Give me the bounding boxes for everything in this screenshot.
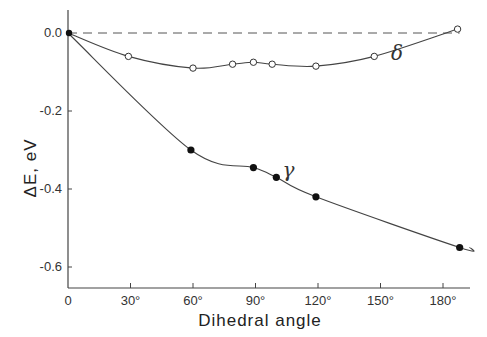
series-markers xyxy=(66,26,463,251)
open-circle-marker xyxy=(313,63,319,69)
x-tick-label: 90° xyxy=(246,293,266,308)
x-tick-label: 30° xyxy=(121,293,141,308)
open-circle-marker xyxy=(250,59,256,65)
axes: 030°60°90°120°150°180°0.0-0.2-0.4-0.6 xyxy=(40,10,470,308)
x-axis-title: Dihedral angle xyxy=(198,311,322,330)
open-circle-marker xyxy=(229,61,235,67)
open-circle-marker xyxy=(190,65,196,71)
open-circle-marker xyxy=(269,61,275,67)
x-tick-label: 0 xyxy=(64,293,71,308)
x-tick-label: 180° xyxy=(430,293,457,308)
series-label-gamma: γ xyxy=(283,158,295,182)
labels: Dihedral angle ΔE, eV δ γ xyxy=(21,41,403,331)
open-circle-marker xyxy=(454,26,460,32)
filled-circle-marker xyxy=(250,164,257,171)
origin-marker xyxy=(66,30,72,36)
filled-circle-marker xyxy=(456,244,463,251)
open-circle-marker xyxy=(371,53,377,59)
y-tick-label: -0.2 xyxy=(40,103,62,118)
x-tick-label: 60° xyxy=(183,293,203,308)
x-tick-label: 120° xyxy=(305,293,332,308)
series-label-delta: δ xyxy=(391,41,403,65)
y-tick-label: 0.0 xyxy=(44,25,62,40)
filled-circle-marker xyxy=(187,146,194,153)
y-axis-title: ΔE, eV xyxy=(21,139,40,198)
open-circle-marker xyxy=(125,53,131,59)
dihedral-energy-chart: 030°60°90°120°150°180°0.0-0.2-0.4-0.6 Di… xyxy=(0,0,487,337)
filled-circle-marker xyxy=(312,193,319,200)
y-tick-label: -0.6 xyxy=(40,259,62,274)
y-tick-label: -0.4 xyxy=(40,181,62,196)
filled-circle-marker xyxy=(273,174,280,181)
x-tick-label: 150° xyxy=(367,293,394,308)
